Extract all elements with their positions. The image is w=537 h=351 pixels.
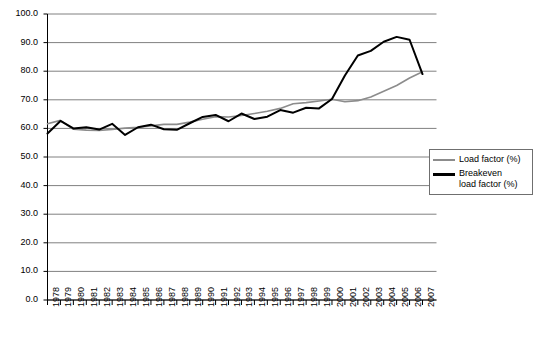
legend-label-breakeven-line1: Breakeven (459, 168, 502, 178)
x-axis-tick-label: 1997 (297, 287, 306, 307)
legend-swatch-breakeven (433, 173, 455, 176)
data-series-group (48, 37, 423, 135)
legend-label-breakeven-line2: load factor (%) (459, 179, 518, 189)
x-axis-tick-label: 1984 (129, 287, 138, 307)
x-axis-tick-label: 1992 (233, 287, 242, 307)
x-axis-tick-label: 1989 (194, 287, 203, 307)
data-series-line (48, 72, 423, 131)
y-axis-tick-label: 60.0 (4, 123, 38, 132)
x-axis-tick-label: 2002 (362, 287, 371, 307)
x-axis-tick-label: 1996 (284, 287, 293, 307)
x-axis-tick-label: 2005 (401, 287, 410, 307)
x-axis-tick-label: 1979 (64, 287, 73, 307)
y-axis-tick-label: 80.0 (4, 66, 38, 75)
x-axis-tick-label: 1982 (103, 287, 112, 307)
data-series-line (48, 37, 423, 135)
legend-label-breakeven: Breakeven load factor (%) (459, 168, 518, 190)
gridlines-group (48, 14, 437, 300)
y-axis-tick-label: 100.0 (4, 9, 38, 18)
x-axis-tick-label: 1998 (310, 287, 319, 307)
legend-item-load-factor: Load factor (%) (433, 154, 529, 165)
x-axis-tick-label: 2006 (414, 287, 423, 307)
x-axis-tick-label: 1994 (258, 287, 267, 307)
y-axis-tick-label: 10.0 (4, 266, 38, 275)
x-axis-tick-label: 1995 (271, 287, 280, 307)
y-axis-tick-label: 0.0 (4, 295, 38, 304)
x-axis-tick-label: 2003 (375, 287, 384, 307)
x-axis-tick-label: 1986 (155, 287, 164, 307)
x-axis-tick-label: 1993 (245, 287, 254, 307)
y-axis-tick-label: 70.0 (4, 95, 38, 104)
y-axis-tick-label: 20.0 (4, 238, 38, 247)
x-axis-tick-label: 1987 (168, 287, 177, 307)
x-axis-tick-label: 1999 (323, 287, 332, 307)
x-axis-tick-label: 1978 (52, 287, 61, 307)
chart-legend: Load factor (%) Breakeven load factor (%… (429, 149, 533, 195)
line-chart: 0.010.020.030.040.050.060.070.080.090.01… (0, 0, 537, 351)
legend-label-load-factor: Load factor (%) (459, 154, 521, 165)
x-axis-tick-label: 1985 (142, 287, 151, 307)
legend-swatch-load-factor (433, 159, 455, 161)
x-axis-tick-label: 2007 (427, 287, 436, 307)
x-axis-tick-label: 1981 (90, 287, 99, 307)
x-axis-tick-label: 1990 (207, 287, 216, 307)
x-axis-tick-label: 2000 (336, 287, 345, 307)
x-axis-tick-label: 2001 (349, 287, 358, 307)
y-axis-tick-label: 40.0 (4, 181, 38, 190)
x-axis-tick-label: 2004 (388, 287, 397, 307)
x-axis-tick-label: 1983 (116, 287, 125, 307)
legend-item-breakeven: Breakeven load factor (%) (433, 168, 529, 190)
x-axis-tick-label: 1991 (220, 287, 229, 307)
y-axis-tick-label: 30.0 (4, 209, 38, 218)
y-axis-tick-label: 50.0 (4, 152, 38, 161)
x-axis-tick-label: 1980 (77, 287, 86, 307)
x-axis-tick-label: 1988 (181, 287, 190, 307)
y-axis-tick-label: 90.0 (4, 38, 38, 47)
